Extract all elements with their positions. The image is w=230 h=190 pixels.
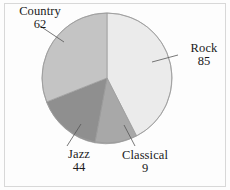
pie-label-jazz: Jazz 44 <box>56 148 102 174</box>
pie-label-jazz-name: Jazz <box>56 148 102 161</box>
pie-label-classical-name: Classical <box>112 149 178 162</box>
pie-label-country-name: Country <box>4 5 76 18</box>
pie-label-rock-name: Rock <box>180 42 228 55</box>
pie-label-jazz-value: 44 <box>56 161 102 174</box>
pie-chart-figure: Country 62 Rock 85 Jazz 44 Classical 9 <box>0 0 230 190</box>
pie-label-country: Country 62 <box>4 5 76 31</box>
pie-label-classical-value: 9 <box>112 162 178 175</box>
pie-label-rock: Rock 85 <box>180 42 228 68</box>
pie-label-classical: Classical 9 <box>112 149 178 175</box>
pie-label-rock-value: 85 <box>180 55 228 68</box>
pie-label-country-value: 62 <box>4 18 76 31</box>
